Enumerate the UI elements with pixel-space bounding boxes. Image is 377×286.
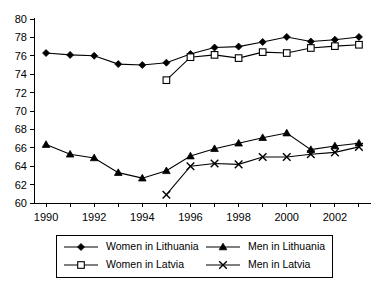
legend-item-men-in-latvia[interactable]: Men in Latvia (206, 258, 311, 270)
data-point-marker (235, 55, 242, 62)
y-axis-tick-label: 66 (15, 142, 27, 154)
legend-item-label: Men in Latvia (248, 258, 311, 270)
y-axis-tick-label: 78 (15, 31, 27, 43)
data-point-marker (114, 169, 122, 176)
y-axis-tick-label: 80 (15, 13, 27, 25)
y-axis-tick-label: 62 (15, 179, 27, 191)
legend-item-women-in-latvia[interactable]: Women in Latvia (64, 258, 184, 270)
data-point-marker (163, 77, 170, 84)
data-point-marker (78, 244, 85, 251)
data-point-marker (163, 59, 170, 66)
y-axis-tick-label: 72 (15, 87, 27, 99)
y-axis-tick-label: 74 (15, 68, 27, 80)
data-point-marker (283, 129, 291, 136)
data-point-marker (283, 33, 290, 40)
data-point-marker (235, 43, 242, 50)
data-point-marker (307, 38, 314, 45)
x-axis-tick-label: 1990 (34, 211, 58, 223)
data-point-marker (308, 45, 315, 52)
data-point-marker (163, 167, 171, 174)
legend-item-label: Women in Latvia (106, 258, 184, 270)
legend-item-label: Men in Lithuania (248, 240, 325, 252)
data-point-marker (259, 39, 266, 46)
series-men-in-lithuania (42, 129, 363, 181)
y-axis-tick-label: 70 (15, 105, 27, 117)
y-axis-tick-label: 60 (15, 197, 27, 209)
data-point-marker (283, 50, 290, 57)
series-men-in-latvia (163, 143, 363, 198)
data-point-marker (187, 54, 194, 61)
y-axis-tick-label: 64 (15, 160, 27, 172)
x-axis-tick-label: 1998 (226, 211, 250, 223)
x-axis-tick-label: 2002 (323, 211, 347, 223)
legend-item-label: Women in Lithuania (106, 240, 199, 252)
data-point-marker (91, 52, 98, 59)
data-point-marker (139, 62, 146, 69)
data-point-marker (355, 33, 362, 40)
chart-axes (34, 18, 371, 203)
data-point-marker (332, 43, 339, 50)
x-axis-tick-label: 1992 (82, 211, 106, 223)
data-point-marker (211, 44, 218, 51)
data-point-marker (42, 141, 50, 148)
data-point-marker (115, 61, 122, 68)
y-axis-tick-label: 76 (15, 50, 27, 62)
data-point-marker (211, 52, 218, 59)
data-point-marker (356, 41, 363, 48)
legend-item-men-in-lithuania[interactable]: Men in Lithuania (206, 240, 325, 252)
y-axis-tick-label: 68 (15, 123, 27, 135)
series-women-in-latvia (163, 41, 362, 83)
data-point-marker (78, 262, 85, 269)
line-chart: 6062646668707274767880199019921994199619… (0, 0, 377, 286)
x-axis-tick-label: 1996 (178, 211, 202, 223)
data-point-marker (67, 51, 74, 58)
chart-container: 6062646668707274767880199019921994199619… (0, 0, 377, 286)
data-point-marker (259, 49, 266, 56)
data-point-marker (331, 36, 338, 43)
x-axis-tick-label: 2000 (275, 211, 299, 223)
data-point-marker (43, 50, 50, 57)
x-axis-tick-label: 1994 (130, 211, 154, 223)
legend-item-women-in-lithuania[interactable]: Women in Lithuania (64, 240, 199, 252)
data-point-marker (163, 191, 171, 199)
